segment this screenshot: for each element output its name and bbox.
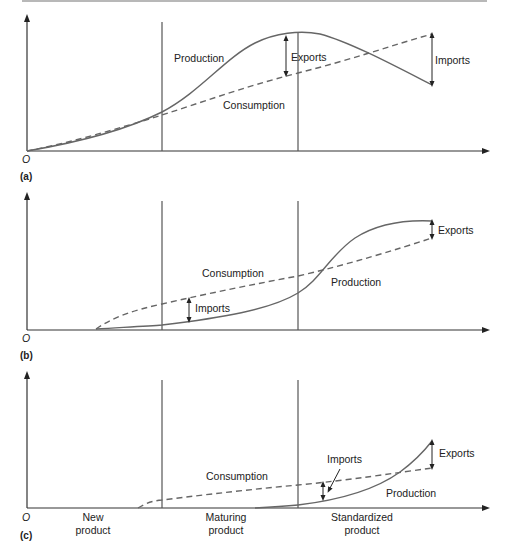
stage-label-line1: Standardized — [317, 511, 407, 524]
origin-label-b: O — [22, 332, 30, 344]
panel-label-b: (b) — [20, 350, 33, 361]
imports-pointer — [329, 469, 340, 490]
consumption-curve — [96, 238, 432, 329]
production-curve — [27, 32, 432, 151]
panel-label-c: (c) — [20, 530, 32, 541]
panel-label-a: (a) — [20, 171, 32, 182]
stage-label-maturing: Maturing product — [181, 511, 271, 537]
exports-label-c: Exports — [439, 447, 475, 459]
imports-label-c: Imports — [327, 453, 362, 465]
production-label-b: Production — [331, 276, 381, 288]
consumption-label-b: Consumption — [202, 267, 264, 279]
origin-label-a: O — [22, 153, 30, 165]
imports-label-b: Imports — [195, 302, 230, 314]
stage-label-line2: product — [181, 524, 271, 537]
consumption-curve — [27, 34, 432, 151]
exports-label-b: Exports — [438, 224, 474, 236]
stage-label-line2: product — [48, 524, 138, 537]
consumption-label-a: Consumption — [223, 99, 285, 111]
panel-a — [27, 18, 486, 151]
panel-b — [27, 196, 486, 330]
consumption-label-c: Consumption — [206, 470, 268, 482]
stage-label-line2: product — [317, 524, 407, 537]
production-curve — [96, 221, 432, 329]
imports-label-a: Imports — [435, 54, 470, 66]
stage-label-line1: New — [48, 511, 138, 524]
production-label-c: Production — [386, 487, 436, 499]
stage-label-new: New product — [48, 511, 138, 537]
stage-label-line1: Maturing — [181, 511, 271, 524]
stage-label-standardized: Standardized product — [317, 511, 407, 537]
origin-label-c: O — [22, 511, 30, 523]
exports-label-a: Exports — [291, 51, 327, 63]
production-label-a: Production — [174, 52, 224, 64]
